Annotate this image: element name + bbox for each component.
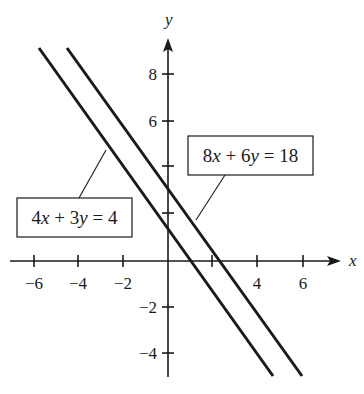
x-axis: x −6 −4 −2 4 6 (10, 251, 357, 293)
x-tick-label: 4 (253, 274, 262, 293)
callout-4x-3y-4: 4x + 3y = 4 (17, 150, 132, 237)
equation-label: 8x + 6y = 18 (203, 145, 298, 166)
y-tick-label: 6 (149, 112, 158, 131)
y-tick-label: −2 (139, 298, 157, 317)
y-tick-label: 8 (149, 65, 158, 84)
y-axis-label: y (163, 10, 173, 29)
x-tick-label: −6 (25, 274, 43, 293)
equation-label: 4x + 3y = 4 (32, 207, 118, 228)
x-tick-label: −2 (114, 274, 132, 293)
x-tick-label: 6 (299, 274, 308, 293)
x-axis-label: x (348, 251, 357, 270)
leader-line (196, 175, 225, 220)
callout-8x-6y-18: 8x + 6y = 18 (188, 136, 313, 220)
x-tick-label: −4 (69, 274, 88, 293)
y-tick-labels: 8 6 −2 −4 (139, 65, 158, 363)
leader-line (79, 150, 106, 198)
x-tick-labels: −6 −4 −2 4 6 (25, 274, 307, 293)
y-tick-label: −4 (139, 344, 158, 363)
linear-equations-chart: x −6 −4 −2 4 6 y 8 (0, 0, 364, 394)
